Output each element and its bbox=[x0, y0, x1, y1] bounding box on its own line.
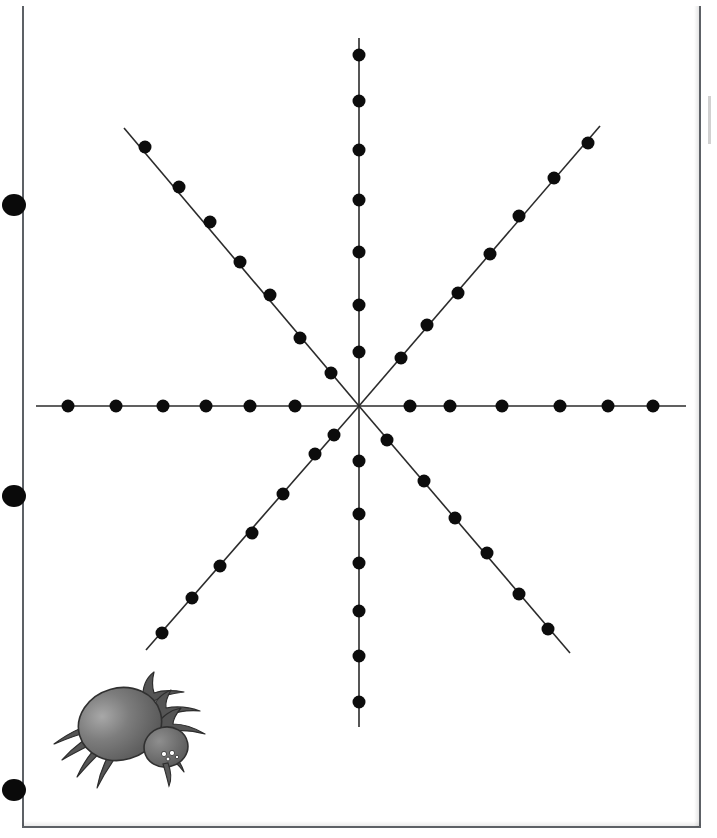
ray-southwest-dot-3 bbox=[214, 560, 227, 573]
ray-northeast-dot-6 bbox=[421, 319, 434, 332]
ray-east-dot-2 bbox=[444, 400, 457, 413]
ray-northwest-dot-3 bbox=[204, 216, 217, 229]
ray-southeast-dot-2 bbox=[418, 475, 431, 488]
ray-east-dot-5 bbox=[602, 400, 615, 413]
ray-northeast-dot-7 bbox=[395, 352, 408, 365]
ray-southwest-dot-2 bbox=[186, 592, 199, 605]
ray-southeast-dot-4 bbox=[481, 547, 494, 560]
ray-group bbox=[36, 38, 686, 727]
ray-north-dot-7 bbox=[353, 346, 366, 359]
ray-northeast-dot-4 bbox=[484, 248, 497, 261]
ray-south-dot-4 bbox=[353, 605, 366, 618]
ray-southwest-dot-5 bbox=[277, 488, 290, 501]
ray-southeast-dot-1 bbox=[381, 434, 394, 447]
ray-north-dot-3 bbox=[353, 144, 366, 157]
ray-north-dot-2 bbox=[353, 95, 366, 108]
ray-east-dot-1 bbox=[404, 400, 417, 413]
ray-southwest-line bbox=[146, 406, 359, 650]
punch-hole bbox=[2, 194, 26, 216]
page-edge-shadow-right bbox=[694, 6, 699, 827]
ray-southwest-dot-1 bbox=[156, 627, 169, 640]
ray-north-dot-5 bbox=[353, 246, 366, 259]
page-edge-shadow-bottom bbox=[22, 821, 701, 826]
ray-southeast-dot-6 bbox=[542, 623, 555, 636]
ray-south-dot-6 bbox=[353, 696, 366, 709]
page-border-bottom bbox=[22, 826, 701, 828]
dot-group bbox=[62, 49, 660, 709]
worksheet-page bbox=[0, 0, 717, 838]
ray-southwest-dot-4 bbox=[246, 527, 259, 540]
ray-north-dot-6 bbox=[353, 299, 366, 312]
ray-south-dot-1 bbox=[353, 455, 366, 468]
ray-northeast-dot-2 bbox=[548, 172, 561, 185]
spider-illustration bbox=[42, 662, 232, 802]
ray-north-dot-4 bbox=[353, 194, 366, 207]
page-border-right bbox=[699, 6, 701, 827]
ray-north-dot-1 bbox=[353, 49, 366, 62]
ray-south-dot-3 bbox=[353, 557, 366, 570]
ray-east-dot-4 bbox=[554, 400, 567, 413]
ray-east-dot-6 bbox=[647, 400, 660, 413]
ray-northeast-line bbox=[359, 126, 600, 406]
ray-northeast-dot-3 bbox=[513, 210, 526, 223]
ray-northwest-dot-4 bbox=[234, 256, 247, 269]
scan-artifact-streak bbox=[708, 96, 711, 144]
ray-northwest-dot-1 bbox=[139, 141, 152, 154]
ray-west-dot-4 bbox=[200, 400, 213, 413]
ray-northwest-dot-2 bbox=[173, 181, 186, 194]
ray-south-dot-2 bbox=[353, 508, 366, 521]
ray-south-dot-5 bbox=[353, 650, 366, 663]
ray-southeast-line bbox=[359, 406, 570, 653]
ray-west-dot-5 bbox=[244, 400, 257, 413]
ray-northeast-dot-1 bbox=[582, 137, 595, 150]
punch-hole bbox=[2, 485, 26, 507]
spider-pedipalp bbox=[163, 763, 171, 786]
ray-northwest-dot-7 bbox=[325, 367, 338, 380]
ray-west-dot-6 bbox=[289, 400, 302, 413]
punch-hole bbox=[2, 779, 26, 801]
ray-northeast-dot-5 bbox=[452, 287, 465, 300]
ray-west-dot-1 bbox=[62, 400, 75, 413]
ray-northwest-dot-6 bbox=[294, 332, 307, 345]
ray-east-dot-3 bbox=[496, 400, 509, 413]
ray-southeast-dot-5 bbox=[513, 588, 526, 601]
page-border-left bbox=[22, 6, 24, 828]
ray-northwest-line bbox=[124, 128, 359, 406]
ray-southwest-dot-6 bbox=[309, 448, 322, 461]
ray-northwest-dot-5 bbox=[264, 289, 277, 302]
ray-west-dot-2 bbox=[110, 400, 123, 413]
ray-west-dot-3 bbox=[157, 400, 170, 413]
ray-southeast-dot-3 bbox=[449, 512, 462, 525]
ray-southwest-dot-7 bbox=[328, 429, 341, 442]
